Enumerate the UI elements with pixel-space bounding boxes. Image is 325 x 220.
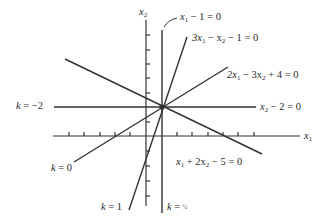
leader-arrow (164, 18, 177, 27)
x2-axis-label: x2 (139, 7, 147, 19)
k-label-half: k = ½ (167, 202, 187, 213)
equation-x1-minus-1: x1 − 1 = 0 (180, 12, 221, 24)
equation-3x1-minus-x2-minus-1: 3x1 − x2 − 1 = 0 (192, 33, 258, 45)
equation-x2-minus-2: x2 − 2 = 0 (260, 102, 301, 114)
k-label-0: k = 0 (51, 163, 72, 174)
k-label-1: k = 1 (101, 202, 122, 213)
x2-axis (146, 20, 150, 206)
line-2x1-minus-3x2-plus-4 (74, 67, 228, 162)
x1-axis (53, 132, 300, 136)
k-label-neg2: k = −2 (16, 101, 43, 112)
equation-2x1-minus-3x2-plus-4: 2x1 − 3x2 + 4 = 0 (227, 70, 298, 82)
x1-axis-label: x1 (304, 131, 312, 143)
equation-x1-plus-2x2-minus-5: x1 + 2x2 − 5 = 0 (176, 157, 242, 169)
intersection-point (159, 104, 164, 109)
